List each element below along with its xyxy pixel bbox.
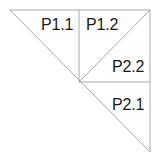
region-label-p21: P2.1 (112, 96, 144, 113)
region-label-p22: P2.2 (112, 58, 144, 75)
triangle-partition-diagram: P1.1 P1.2 P2.2 P2.1 (0, 0, 157, 163)
region-label-p12: P1.2 (86, 16, 118, 33)
partition-svg (0, 0, 157, 163)
region-label-p11: P1.1 (41, 16, 73, 33)
